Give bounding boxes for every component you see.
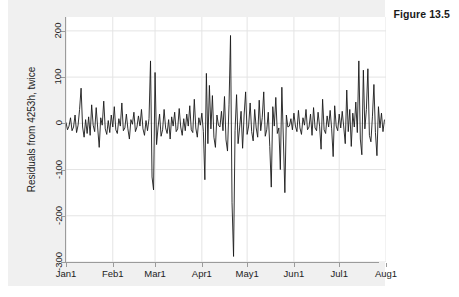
x-tick-label: Jun1 <box>272 268 316 279</box>
y-tick-label: -200 <box>53 206 64 225</box>
gridlines-horizontal <box>66 31 386 262</box>
residuals-series-line <box>66 35 384 256</box>
x-tick-mark <box>202 263 203 267</box>
x-tick-label: Aug1 <box>364 268 408 279</box>
y-tick-label: 0 <box>53 120 64 125</box>
chart-plot-svg <box>66 17 386 262</box>
figure-canvas: 2001000-100-200-300 Jan1Feb1Mar1Apr1May1… <box>8 0 385 286</box>
x-tick-label: Apr1 <box>180 268 224 279</box>
x-tick-mark <box>66 263 67 267</box>
x-tick-mark <box>339 263 340 267</box>
x-tick-mark <box>247 263 248 267</box>
y-tick-label-wrap: -300 <box>30 256 58 268</box>
x-tick-label: May1 <box>225 268 269 279</box>
x-tick-label: Mar1 <box>133 268 177 279</box>
figure-caption: Figure 13.5 <box>393 8 450 20</box>
x-tick-mark <box>155 263 156 267</box>
x-tick-label: Feb1 <box>91 268 135 279</box>
y-axis-title: Residuals from 4253h, twice <box>26 30 37 230</box>
x-tick-mark <box>386 263 387 267</box>
y-tick-label: 200 <box>53 22 64 38</box>
y-axis-line <box>65 17 66 263</box>
x-tick-mark <box>294 263 295 267</box>
y-tick-label: 100 <box>53 69 64 85</box>
x-tick-label: Jan1 <box>44 268 88 279</box>
plot-area <box>66 17 386 262</box>
y-tick-label: -100 <box>53 160 64 179</box>
x-tick-mark <box>113 263 114 267</box>
x-tick-label: Jul1 <box>317 268 361 279</box>
